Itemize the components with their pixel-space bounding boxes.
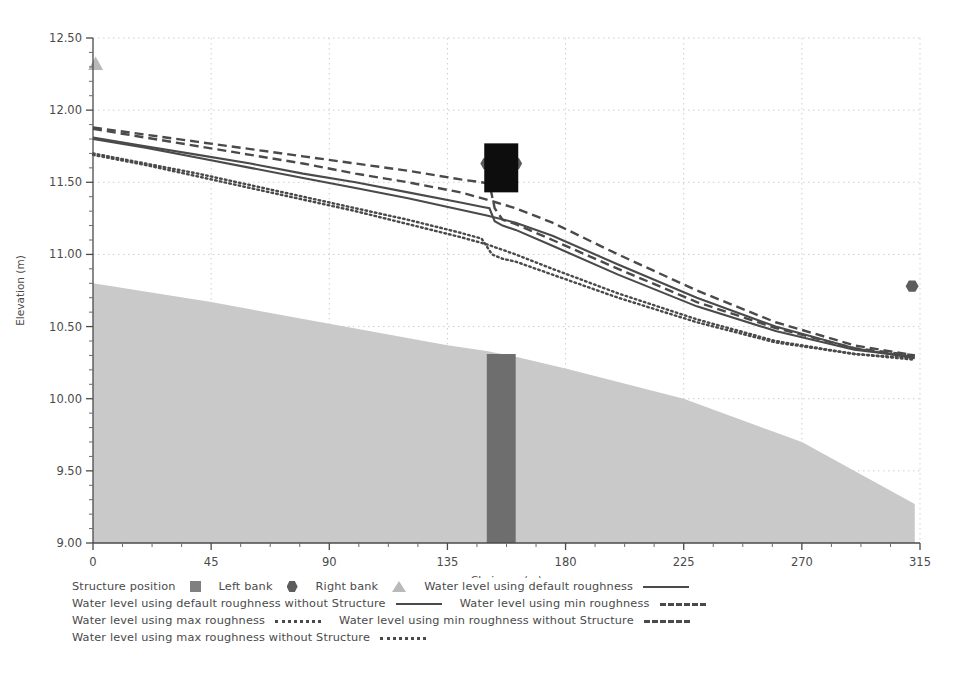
elevation-profile-chart: 9.009.5010.0010.5011.0011.5012.0012.5004… — [0, 0, 958, 578]
x-axis-tick-label: 45 — [204, 555, 219, 569]
y-axis-tick-label: 11.00 — [49, 247, 82, 261]
y-axis-tick-label: 10.50 — [49, 320, 82, 334]
legend-row: Water level using max roughnessWater lev… — [0, 612, 958, 629]
x-axis-tick-label: 0 — [89, 555, 96, 569]
chart-legend: Structure positionLeft bankRight bankWat… — [0, 578, 958, 675]
x-axis-tick-label: 135 — [436, 555, 458, 569]
legend-entry[interactable]: Left bank — [219, 580, 298, 593]
y-axis-tick-label: 9.00 — [56, 536, 82, 550]
right-bank-marker-icon — [392, 581, 406, 592]
line-style-dotted-icon — [380, 637, 426, 640]
legend-entry[interactable]: Water level using min roughness — [460, 597, 706, 610]
legend-entry-label: Water level using default roughness with… — [72, 597, 386, 610]
legend-entry[interactable]: Water level using default roughness — [424, 580, 689, 593]
structure-position-marker — [484, 143, 518, 192]
legend-row: Structure positionLeft bankRight bankWat… — [0, 578, 958, 595]
legend-entry-label: Water level using min roughness without … — [339, 614, 634, 627]
x-axis-tick-label: 180 — [555, 555, 577, 569]
x-axis-tick-label: 225 — [673, 555, 695, 569]
structure-column — [487, 354, 516, 543]
legend-entry-label: Water level using max roughness without … — [72, 631, 370, 644]
legend-line-key-dotted — [275, 615, 321, 627]
legend-line-key-solid — [396, 598, 442, 610]
legend-entry[interactable]: Water level using default roughness with… — [72, 597, 442, 610]
legend-entry[interactable]: Water level using max roughness without … — [72, 631, 426, 644]
left-bank-marker-icon — [287, 581, 298, 592]
legend-entry[interactable]: Structure position — [72, 580, 201, 593]
legend-entry[interactable]: Right bank — [316, 580, 407, 593]
legend-entry[interactable]: Water level using min roughness without … — [339, 614, 690, 627]
line-style-solid-icon — [396, 603, 442, 605]
legend-entry-label: Water level using min roughness — [460, 597, 650, 610]
y-axis-tick-label: 9.50 — [56, 464, 82, 478]
legend-line-key-dotted — [380, 632, 426, 644]
y-axis-tick-label: 10.00 — [49, 392, 82, 406]
legend-entry-label: Water level using default roughness — [424, 580, 633, 593]
legend-line-key-dashed — [644, 615, 690, 627]
x-axis-tick-label: 90 — [322, 555, 337, 569]
line-style-dashed-icon — [660, 603, 706, 606]
legend-line-key-dashed — [660, 598, 706, 610]
legend-line-key-solid — [643, 581, 689, 593]
legend-entry-label: Structure position — [72, 580, 176, 593]
chart-container: 9.009.5010.0010.5011.0011.5012.0012.5004… — [0, 0, 958, 675]
legend-entry-label: Water level using max roughness — [72, 614, 265, 627]
structure-position-swatch-icon — [190, 581, 201, 592]
x-axis-tick-label: 315 — [909, 555, 931, 569]
legend-entry-label: Right bank — [316, 580, 379, 593]
line-style-dotted-icon — [275, 620, 321, 623]
y-axis-tick-label: 11.50 — [49, 175, 82, 189]
y-axis-tick-label: 12.50 — [49, 31, 82, 45]
line-style-solid-icon — [643, 586, 689, 588]
y-axis-title: Elevation (m) — [14, 255, 26, 326]
legend-row: Water level using max roughness without … — [0, 629, 958, 646]
legend-entry[interactable]: Water level using max roughness — [72, 614, 321, 627]
x-axis-tick-label: 270 — [791, 555, 813, 569]
legend-entry-label: Left bank — [219, 580, 273, 593]
y-axis-tick-label: 12.00 — [49, 103, 82, 117]
legend-row: Water level using default roughness with… — [0, 595, 958, 612]
line-style-dashed-icon — [644, 620, 690, 623]
